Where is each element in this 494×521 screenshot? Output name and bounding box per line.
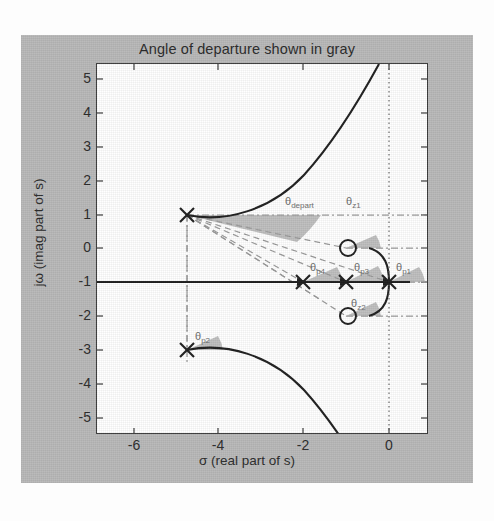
ytick-label: -1: [65, 273, 91, 289]
ytick-label: 4: [65, 104, 91, 120]
ytick-label: 5: [65, 70, 91, 86]
ytick-label: -3: [65, 341, 91, 357]
ytick-label: 0: [65, 239, 91, 255]
annotation-theta-p1: θp1: [396, 261, 411, 276]
y-axis-title: jω (imag part of s): [31, 153, 46, 313]
root-locus-branches: [97, 64, 410, 501]
ytick-label: 3: [65, 138, 91, 154]
ytick-label: -4: [65, 375, 91, 391]
ytick-label: 2: [65, 172, 91, 188]
tick-marks: [97, 64, 427, 434]
figure-panel: Angle of departure shown in gray: [21, 35, 473, 483]
ytick-label: -5: [65, 409, 91, 425]
annotation-theta-p2: θp2: [195, 330, 210, 345]
xtick-label: -2: [283, 437, 323, 453]
x-axis-title: σ (real part of s): [21, 453, 473, 468]
annotation-theta-z2: θz2: [351, 297, 366, 312]
page-canvas: Angle of departure shown in gray: [0, 0, 494, 521]
xtick-label: 0: [369, 437, 409, 453]
annotation-theta-z1: θz1: [346, 195, 361, 210]
annotation-theta-p3: θp3: [354, 261, 369, 276]
annotation-theta-p4: θp4: [310, 261, 325, 276]
xtick-label: -4: [198, 437, 238, 453]
annotation-theta-depart: θdepart: [285, 195, 314, 210]
xtick-label: -6: [114, 437, 154, 453]
ytick-label: -2: [65, 307, 91, 323]
ytick-label: 1: [65, 206, 91, 222]
